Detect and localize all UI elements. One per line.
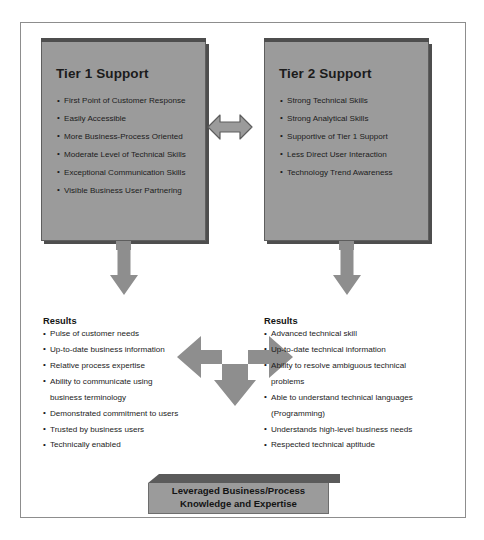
leveraged-knowledge-banner: Leveraged Business/Process Knowledge and… — [148, 474, 340, 514]
results-left-list: Pulse of customer needs Up-to-date busin… — [43, 330, 218, 450]
list-item: Relative process expertise — [43, 362, 218, 371]
list-item: Moderate Level of Technical Skills — [57, 151, 197, 159]
list-item: Pulse of customer needs — [43, 330, 218, 339]
tier-1-title: Tier 1 Support — [56, 66, 205, 81]
tier-2-support-box: Tier 2 Support Strong Technical Skills S… — [264, 41, 429, 241]
list-item: Strong Analytical Skills — [280, 115, 420, 123]
banner-line-1: Leveraged Business/Process — [172, 485, 305, 496]
double-headed-arrow-icon — [207, 109, 253, 145]
tier-1-down-arrow-icon — [109, 245, 139, 297]
results-right-title: Results — [264, 316, 459, 326]
list-item: Strong Technical Skills — [280, 97, 420, 105]
results-left-block: Results Pulse of customer needs Up-to-da… — [43, 316, 218, 457]
list-item: Demonstrated commitment to users — [43, 410, 218, 419]
list-item: Understands high-level business needs — [264, 426, 459, 435]
list-item: Technology Trend Awareness — [280, 169, 420, 177]
banner-top-face — [148, 474, 340, 483]
list-item-continuation: business terminology — [43, 394, 218, 403]
results-right-block: Results Advanced technical skill Up-to-d… — [264, 316, 459, 457]
list-item: Ability to resolve ambiguous technical — [264, 362, 459, 371]
list-item-continuation: (Programming) — [264, 410, 459, 419]
results-right-list: Advanced technical skill Up-to-date tech… — [264, 330, 459, 450]
list-item: Visible Business User Partnering — [57, 187, 197, 195]
list-item: Supportive of Tier 1 Support — [280, 133, 420, 141]
list-item: Technically enabled — [43, 441, 218, 450]
list-item: Trusted by business users — [43, 426, 218, 435]
tier-2-list: Strong Technical Skills Strong Analytica… — [265, 97, 428, 177]
diagram-frame: Tier 1 Support First Point of Customer R… — [20, 22, 466, 518]
list-item: Ability to communicate using — [43, 378, 218, 387]
list-item: Up-to-date business information — [43, 346, 218, 355]
list-item: Able to understand technical languages — [264, 394, 459, 403]
list-item: Respected technical aptitude — [264, 441, 459, 450]
tier-1-support-box: Tier 1 Support First Point of Customer R… — [41, 41, 206, 241]
results-left-title: Results — [43, 316, 218, 326]
banner-text: Leveraged Business/Process Knowledge and… — [168, 485, 309, 511]
list-item: Exceptional Communication Skills — [57, 169, 197, 177]
list-item: Less Direct User Interaction — [280, 151, 420, 159]
tier-2-title: Tier 2 Support — [279, 66, 428, 81]
list-item: More Business-Process Oriented — [57, 133, 197, 141]
banner-line-2: Knowledge and Expertise — [180, 498, 297, 509]
tier-2-down-arrow-icon — [332, 245, 362, 297]
list-item: First Point of Customer Response — [57, 97, 197, 105]
banner-front-face: Leveraged Business/Process Knowledge and… — [148, 483, 329, 514]
list-item: Advanced technical skill — [264, 330, 459, 339]
list-item: Easily Accessible — [57, 115, 197, 123]
tier-1-list: First Point of Customer Response Easily … — [42, 97, 205, 195]
list-item-continuation: problems — [264, 378, 459, 387]
list-item: Up-to-date technical information — [264, 346, 459, 355]
